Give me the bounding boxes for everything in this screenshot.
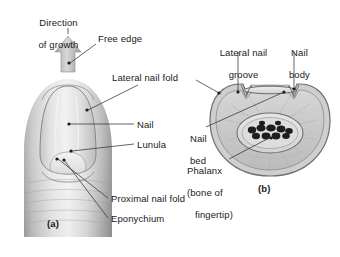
panel-label-b: (b) — [258, 183, 270, 194]
nail-anatomy-figure: Direction of growth Free edge Lateral na… — [0, 0, 340, 257]
label-nail: Nail — [137, 119, 154, 130]
label-eponychium: Eponychium — [111, 213, 164, 224]
label-lunula: Lunula — [137, 139, 166, 150]
fingertip-surface-view — [24, 36, 112, 237]
panel-label-a: (a) — [47, 218, 59, 229]
label-nail-body: Nail body — [276, 36, 312, 91]
label-direction-of-growth: Direction of growth — [22, 6, 84, 61]
label-free-edge: Free edge — [98, 33, 142, 44]
label-lateral-nail-groove: Lateral nail groove — [207, 36, 269, 91]
label-proximal-nail-fold: Proximal nail fold — [111, 193, 185, 204]
label-lateral-nail-fold: Lateral nail fold — [112, 72, 178, 83]
label-phalanx: Phalanx (bone of fingertip) — [176, 154, 233, 231]
